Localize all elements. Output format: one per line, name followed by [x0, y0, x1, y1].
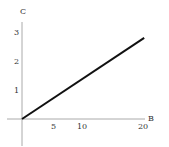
y-tick-label: 1: [14, 86, 19, 95]
x-tick-label: 10: [77, 122, 87, 131]
x-axis-label: B: [148, 114, 154, 123]
y-axis-label: C: [20, 7, 26, 16]
y-tick-label: 2: [14, 57, 19, 66]
y-tick-label: 3: [14, 28, 19, 37]
data-line: [22, 38, 144, 119]
x-tick-label: 5: [51, 122, 56, 131]
line-chart: C B 3 2 1 5 10 20: [0, 0, 169, 147]
x-tick-label: 20: [138, 122, 148, 131]
